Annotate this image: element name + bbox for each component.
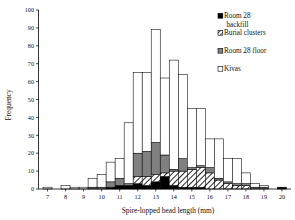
x-axis-ticks: 7891011121314151617181920 xyxy=(46,189,285,200)
bar-segment-kivas xyxy=(250,184,259,188)
bar-segment-kivas xyxy=(187,108,196,167)
bar-segment-room-28-floor xyxy=(142,151,151,176)
y-tick-label: 100 xyxy=(25,6,34,13)
histogram-chart: 0102030405060708090100 78910111213141516… xyxy=(0,0,295,220)
legend-swatch-room-28-floor xyxy=(218,48,223,53)
bar-segment-burial-clusters xyxy=(169,171,178,185)
x-tick-label: 16 xyxy=(207,193,213,200)
bar-segment-kivas xyxy=(124,123,133,184)
bar-segment-burial-clusters xyxy=(160,173,169,177)
bar-segment-kivas xyxy=(196,108,205,165)
histogram-bar xyxy=(61,185,70,189)
bar-segment-burial-clusters xyxy=(205,173,214,189)
y-tick-label: 60 xyxy=(28,78,34,85)
y-tick-label: 30 xyxy=(28,132,34,139)
chart-canvas: 0102030405060708090100 78910111213141516… xyxy=(0,0,295,220)
x-tick-label: 10 xyxy=(99,193,105,200)
bar-segment-kivas xyxy=(178,74,187,158)
bar-segment-burial-clusters xyxy=(196,168,205,188)
bar-segment-kivas xyxy=(106,162,115,182)
legend-label: Room 28 xyxy=(224,12,251,20)
bar-segment-burial-clusters xyxy=(232,185,241,189)
histogram-bar xyxy=(178,74,187,189)
bar-segment-room-28-backfill xyxy=(115,185,124,189)
bar-segment-kivas xyxy=(259,185,268,187)
chart-legend: Room 28backfillBurial clustersRoom 28 fl… xyxy=(218,12,267,73)
y-axis-title: Frequency xyxy=(4,89,13,120)
y-tick-label: 70 xyxy=(28,60,34,67)
histogram-bar xyxy=(241,173,250,189)
bar-segment-room-28-floor xyxy=(151,142,160,174)
bar-segment-kivas xyxy=(97,175,106,188)
bar-segment-room-28-floor xyxy=(133,153,142,176)
bar-segment-kivas xyxy=(232,159,241,184)
bar-segment-burial-clusters xyxy=(187,169,196,187)
legend-label: Kivas xyxy=(224,65,241,73)
bar-segment-burial-clusters xyxy=(223,184,232,189)
histogram-bar xyxy=(187,108,196,189)
bar-segment-room-28-backfill xyxy=(142,185,151,189)
y-axis-ticks: 0102030405060708090100 xyxy=(25,6,39,192)
bar-segment-kivas xyxy=(169,60,178,169)
x-tick-label: 14 xyxy=(171,193,177,200)
histogram-bar xyxy=(160,78,169,189)
legend-swatch-burial-clusters xyxy=(218,30,223,35)
bar-segment-kivas xyxy=(241,173,250,184)
y-tick-label: 10 xyxy=(28,167,34,174)
histogram-bar xyxy=(169,60,178,189)
bar-segment-room-28-backfill xyxy=(160,176,169,189)
histogram-bar xyxy=(115,159,124,189)
histogram-bar xyxy=(259,185,268,189)
legend-item: Room 28 floor xyxy=(218,47,267,55)
histogram-bar xyxy=(142,73,151,189)
histogram-bar xyxy=(124,123,133,189)
y-tick-label: 50 xyxy=(28,96,34,103)
histogram-bar xyxy=(88,178,97,189)
histogram-bar xyxy=(133,73,142,189)
bar-segment-room-28-backfill xyxy=(133,184,142,189)
bar-segment-kivas xyxy=(151,30,160,143)
legend-swatch-kivas xyxy=(218,66,223,71)
histogram-bar xyxy=(214,139,223,189)
x-tick-label: 15 xyxy=(189,193,195,200)
legend-item: Kivas xyxy=(218,65,241,73)
x-axis-title: Spire-lopped bead length (mm) xyxy=(122,206,215,215)
x-tick-label: 18 xyxy=(243,193,249,200)
x-tick-label: 19 xyxy=(261,193,267,200)
bar-segment-burial-clusters xyxy=(133,176,142,183)
legend-item: Burial clusters xyxy=(218,29,266,37)
bar-segment-burial-clusters xyxy=(151,175,160,182)
x-tick-label: 17 xyxy=(225,193,231,200)
histogram-bar xyxy=(232,159,241,189)
bar-segment-room-28-floor xyxy=(178,159,187,172)
bar-segment-kivas xyxy=(133,73,142,154)
legend-label: Room 28 floor xyxy=(224,47,267,55)
histogram-bar xyxy=(106,162,115,189)
bar-segment-kivas xyxy=(115,159,124,179)
bar-segment-kivas xyxy=(223,159,232,182)
histogram-bar xyxy=(196,108,205,189)
bar-segment-room-28-floor xyxy=(106,182,115,187)
bar-segment-kivas xyxy=(160,78,169,155)
bar-segment-kivas xyxy=(205,139,214,168)
y-tick-label: 20 xyxy=(28,149,34,156)
bar-segment-kivas xyxy=(88,178,97,187)
legend-label: Burial clusters xyxy=(224,29,266,37)
bar-segment-kivas xyxy=(142,73,151,152)
bar-segment-room-28-backfill xyxy=(124,185,133,189)
bar-segment-room-28-backfill xyxy=(151,182,160,189)
bar-segment-burial-clusters xyxy=(142,176,151,185)
x-tick-label: 8 xyxy=(64,193,67,200)
y-tick-label: 40 xyxy=(28,114,34,121)
x-tick-label: 20 xyxy=(279,193,285,200)
x-tick-label: 9 xyxy=(82,193,85,200)
x-tick-label: 11 xyxy=(117,193,123,200)
bar-segment-room-28-backfill xyxy=(169,185,178,189)
bar-segment-burial-clusters xyxy=(241,185,250,189)
y-tick-label: 80 xyxy=(28,42,34,49)
y-tick-label: 0 xyxy=(31,185,34,192)
legend-label-line2: backfill xyxy=(227,21,249,29)
legend-swatch-room-28 xyxy=(218,13,223,18)
bar-segment-kivas xyxy=(61,185,70,189)
bar-segment-burial-clusters xyxy=(178,171,187,187)
